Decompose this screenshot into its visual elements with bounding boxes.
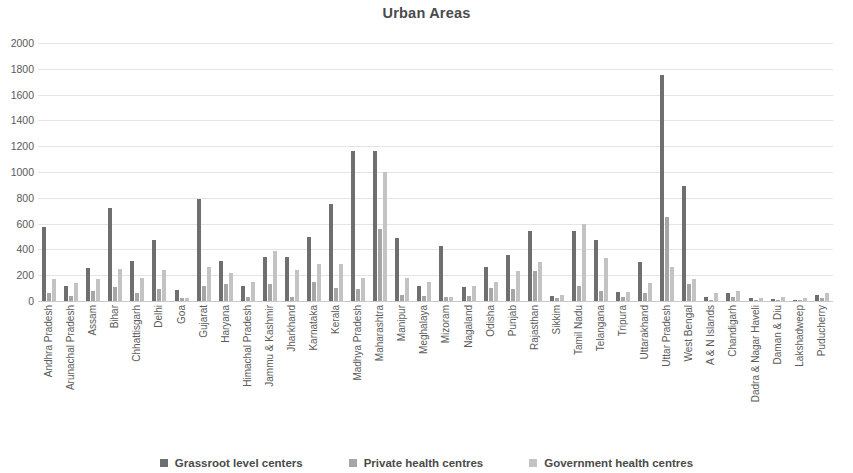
y-axis-tick-label: 1200 — [0, 140, 34, 152]
bar — [798, 300, 802, 301]
bar-group — [391, 43, 413, 301]
y-axis-tick-label: 1400 — [0, 114, 34, 126]
bar — [577, 286, 581, 301]
bar-group — [148, 43, 170, 301]
x-axis-tick: Punjab — [502, 303, 524, 448]
bar-group — [325, 43, 347, 301]
bar — [219, 261, 223, 301]
x-axis-tick-label: Puducherry — [817, 305, 827, 356]
bar — [317, 264, 321, 301]
legend-item[interactable]: Grassroot level centers — [160, 457, 303, 469]
x-axis-tick: Lakshadweep — [789, 303, 811, 448]
bar — [462, 287, 466, 301]
bar — [759, 298, 763, 301]
x-axis-tick-label: Arunachal Pradesh — [66, 305, 76, 390]
x-axis-tick-label: Telangana — [596, 305, 606, 351]
bar — [86, 268, 90, 301]
y-axis-tick-label: 1600 — [0, 89, 34, 101]
bar — [582, 224, 586, 301]
bar — [660, 75, 664, 301]
x-axis-tick-label: Daman & Diu — [773, 305, 783, 364]
bar-group — [237, 43, 259, 301]
bar-group — [568, 43, 590, 301]
bar — [175, 290, 179, 301]
bar — [329, 204, 333, 301]
bar — [378, 229, 382, 301]
bar-group — [369, 43, 391, 301]
legend-item-label: Private health centres — [364, 457, 484, 469]
bar — [594, 240, 598, 301]
x-axis-tick: Mizoram — [435, 303, 457, 448]
bar — [444, 297, 448, 301]
x-axis-tick-label: Jharkhand — [287, 305, 297, 352]
y-axis-tick-label: 200 — [0, 269, 34, 281]
bar — [268, 284, 272, 301]
x-axis-tick-label: Kerala — [331, 305, 341, 334]
bar — [449, 297, 453, 301]
bar — [621, 297, 625, 301]
bar — [241, 286, 245, 301]
x-axis-tick: Sikkim — [546, 303, 568, 448]
bar — [467, 296, 471, 301]
bar — [207, 267, 211, 301]
bar-group — [215, 43, 237, 301]
x-axis-tick-label: Gujarat — [199, 305, 209, 338]
bar — [731, 297, 735, 301]
bar-group — [590, 43, 612, 301]
x-axis-tick-label: Sikkim — [552, 305, 562, 334]
bars-layer — [38, 43, 833, 301]
y-axis: 2000180016001400120010008006004002000 — [0, 43, 34, 301]
bar — [339, 264, 343, 301]
bar — [550, 296, 554, 301]
bar — [736, 291, 740, 301]
bar — [771, 299, 775, 301]
bar — [538, 262, 542, 301]
bar — [533, 271, 537, 301]
bar — [307, 237, 311, 302]
x-axis-tick-label: A & N Islands — [706, 305, 716, 365]
bar-group — [435, 43, 457, 301]
bar — [726, 293, 730, 301]
bar — [113, 287, 117, 301]
bar-group — [789, 43, 811, 301]
bar — [290, 297, 294, 301]
legend-swatch-icon — [160, 459, 168, 467]
bar — [52, 279, 56, 301]
legend-item[interactable]: Private health centres — [349, 457, 484, 469]
legend-swatch-icon — [529, 459, 537, 467]
bar — [405, 278, 409, 301]
x-axis-tick: Goa — [170, 303, 192, 448]
x-axis-tick: Chandigarh — [722, 303, 744, 448]
bar-group — [634, 43, 656, 301]
bar — [692, 279, 696, 301]
chart-legend: Grassroot level centersPrivate health ce… — [0, 452, 853, 473]
x-axis-tick: Telangana — [590, 303, 612, 448]
bar — [47, 293, 51, 301]
x-axis-tick-label: Odisha — [486, 305, 496, 337]
bar — [229, 273, 233, 301]
x-axis-tick-label: Manipur — [397, 305, 407, 341]
bar — [484, 267, 488, 301]
bar-group — [656, 43, 678, 301]
bar — [91, 291, 95, 301]
bar — [781, 297, 785, 301]
chart-title: Urban Areas — [0, 5, 853, 21]
bar — [69, 296, 73, 301]
bar-group — [281, 43, 303, 301]
bar-group — [104, 43, 126, 301]
bar — [825, 293, 829, 301]
bar — [439, 246, 443, 301]
x-axis-tick: Haryana — [215, 303, 237, 448]
bar — [395, 238, 399, 301]
bar — [704, 297, 708, 301]
bar — [334, 288, 338, 301]
bar — [776, 300, 780, 301]
bar — [749, 298, 753, 301]
x-axis-tick: Puducherry — [811, 303, 833, 448]
legend-item[interactable]: Government health centres — [529, 457, 693, 469]
bar — [793, 300, 797, 301]
x-axis-tick-label: Meghalaya — [419, 305, 429, 354]
bar — [140, 278, 144, 301]
bar-group — [767, 43, 789, 301]
legend-swatch-icon — [349, 459, 357, 467]
